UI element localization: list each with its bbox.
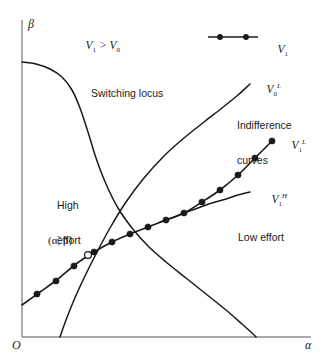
legend-v-base: V bbox=[278, 43, 285, 55]
cond-relation: > bbox=[96, 39, 110, 51]
low-effort-label: Low effort bbox=[238, 232, 284, 244]
legend-label: V1 bbox=[266, 30, 288, 72]
v1-data-marker bbox=[127, 231, 133, 237]
v1-data-marker bbox=[53, 278, 59, 284]
y-axis-label: β bbox=[28, 18, 34, 31]
v1-data-marker bbox=[34, 291, 40, 297]
high-effort-line1: High bbox=[57, 200, 81, 212]
v0l-sub: 0 bbox=[274, 90, 278, 98]
equilibrium-point-label: (α̃, β̃) bbox=[48, 234, 72, 246]
v1l-sub: 1 bbox=[299, 146, 303, 154]
cond-v1-base: V bbox=[86, 39, 93, 51]
v1h-sub: 1 bbox=[279, 200, 283, 208]
legend-group bbox=[208, 34, 258, 40]
v1-data-marker bbox=[109, 239, 115, 245]
cond-v0-base: V bbox=[110, 39, 117, 51]
switching-locus-label: Switching locus bbox=[91, 88, 163, 100]
v1l-base: V bbox=[292, 139, 299, 151]
high-effort-label: High effort bbox=[57, 176, 81, 270]
v1-data-marker bbox=[145, 224, 151, 230]
legend-v-sub: 1 bbox=[285, 50, 289, 58]
origin-label: O bbox=[12, 339, 21, 352]
cond-v0-sub: 0 bbox=[117, 46, 121, 54]
equilibrium-open-marker bbox=[85, 252, 92, 259]
curve-v0-low bbox=[60, 84, 250, 337]
v1h-base: V bbox=[272, 193, 279, 205]
v1-data-marker bbox=[163, 217, 169, 223]
v1l-sup: L bbox=[302, 138, 306, 146]
v1h-sup: H bbox=[282, 192, 287, 200]
curve-label-v1-low: V1L bbox=[280, 126, 306, 168]
v1-data-marker bbox=[181, 210, 187, 216]
legend-marker bbox=[217, 34, 223, 40]
v0l-base: V bbox=[267, 83, 274, 95]
figure-canvas: β α O V1 > V0 V1 Switching locus Indiffe… bbox=[0, 0, 327, 362]
curve-label-v0-low: V0L bbox=[255, 70, 281, 112]
x-axis-label: α bbox=[305, 339, 311, 352]
v1-data-marker bbox=[199, 199, 205, 205]
curve-label-v1-high: V1H bbox=[260, 180, 287, 222]
v0l-sup: L bbox=[277, 82, 281, 90]
legend-marker bbox=[243, 34, 249, 40]
region-condition-label: V1 > V0 bbox=[74, 26, 120, 68]
v1-data-marker bbox=[217, 187, 223, 193]
